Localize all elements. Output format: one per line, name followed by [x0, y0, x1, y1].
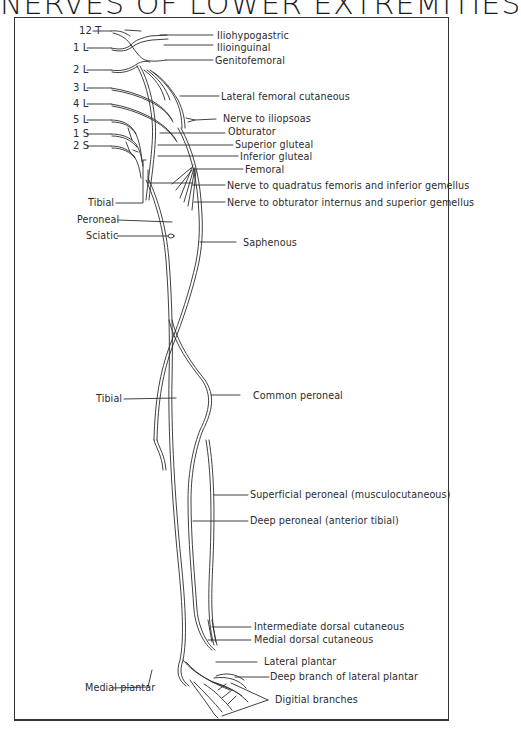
label-peroneal: Peroneal — [77, 214, 119, 225]
label-deep-branch-lateral-plantar: Deep branch of lateral plantar — [270, 671, 418, 682]
root-label-4l: 4 L — [73, 98, 88, 109]
root-leader-lines — [87, 31, 111, 146]
label-tibial-upper: Tibial — [88, 197, 114, 208]
label-nerve-to-obturator-internus: Nerve to obturator internus and superior… — [227, 197, 474, 208]
foot-plantar — [183, 660, 248, 718]
label-femoral: Femoral — [245, 164, 284, 175]
label-tibial-lower: Tibial — [96, 393, 122, 404]
label-digital-branches: Digitial branches — [275, 694, 358, 705]
label-intermediate-dorsal-cutaneous: Intermediate dorsal cutaneous — [254, 621, 404, 632]
label-nerve-to-quadratus-femoris: Nerve to quadratus femoris and inferior … — [227, 180, 469, 191]
root-label-5l: 5 L — [73, 114, 88, 125]
label-medial-plantar: Medial plantar — [85, 682, 155, 693]
left-leader-lines — [113, 160, 193, 688]
label-lateral-plantar: Lateral plantar — [264, 656, 336, 667]
femoral-saphenous — [154, 128, 202, 470]
root-label-1l: 1 L — [73, 42, 88, 53]
label-medial-dorsal-cutaneous: Medial dorsal cutaneous — [254, 634, 373, 645]
label-inferior-gluteal: Inferior gluteal — [240, 151, 312, 162]
root-label-12t: 12 T — [79, 25, 101, 36]
label-deep-peroneal: Deep peroneal (anterior tibial) — [250, 515, 399, 526]
root-label-1s: 1 S — [73, 128, 89, 139]
label-ilioinguinal: Ilioinguinal — [217, 42, 270, 53]
root-label-2s: 2 S — [73, 140, 89, 151]
label-genitofemoral: Genitofemoral — [215, 55, 285, 66]
root-label-3l: 3 L — [73, 82, 88, 93]
label-superior-gluteal: Superior gluteal — [235, 139, 313, 150]
sciatic-tibial — [146, 180, 189, 686]
label-lateral-femoral-cutaneous: Lateral femoral cutaneous — [221, 91, 350, 102]
common-peroneal — [169, 320, 217, 650]
label-nerve-to-iliopsoas: Nerve to iliopsoas — [223, 113, 311, 124]
label-iliohypogastric: Iliohypogastric — [217, 30, 289, 41]
label-saphenous: Saphenous — [243, 237, 297, 248]
root-label-2l: 2 L — [73, 64, 88, 75]
label-common-peroneal: Common peroneal — [253, 390, 343, 401]
label-obturator: Obturator — [228, 126, 276, 137]
label-sciatic: Sciatic — [86, 230, 118, 241]
label-superficial-peroneal: Superficial peroneal (musculocutaneous) — [250, 489, 450, 500]
